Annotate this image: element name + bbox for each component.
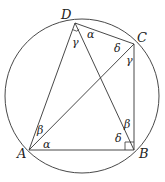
angle-label-C-gamma: γ	[126, 54, 133, 67]
diagram-canvas: D C A B γ α δ γ β α β δ	[0, 0, 165, 182]
angle-label-D-gamma: γ	[72, 36, 79, 49]
right-angle-marker-B	[125, 142, 134, 150]
point-label-C: C	[137, 30, 147, 45]
point-label-D: D	[60, 7, 72, 22]
angle-label-B-beta: β	[123, 118, 130, 131]
side-CD	[75, 23, 134, 44]
point-label-B: B	[138, 146, 149, 161]
angle-label-A-alpha: α	[43, 138, 51, 151]
geometry-diagram: D C A B γ α δ γ β α β δ	[0, 0, 165, 182]
angle-label-B-delta: δ	[115, 132, 122, 145]
side-DA	[29, 23, 75, 150]
point-label-A: A	[16, 146, 26, 161]
angle-label-D-alpha: α	[87, 28, 95, 41]
angle-label-C-delta: δ	[114, 42, 121, 55]
angle-label-A-beta: β	[36, 124, 43, 137]
